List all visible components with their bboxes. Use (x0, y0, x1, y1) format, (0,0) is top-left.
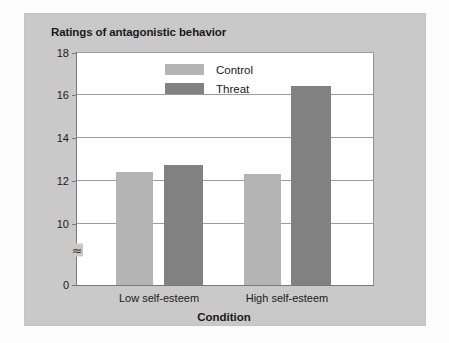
legend-item-control: Control (165, 60, 253, 79)
legend-item-threat: Threat (165, 79, 253, 98)
xaxis-category-label-high-self-esteem: High self-esteem (246, 292, 329, 304)
plot-area: 18 16 14 12 10 ≈ 0 (76, 52, 374, 286)
ytick-label-18: 18 (57, 47, 69, 59)
ytick-label-0: 0 (63, 279, 69, 291)
xaxis-title: Condition (197, 311, 251, 323)
bar-threat-high-self-esteem (291, 86, 331, 285)
chart-title: Ratings of antagonistic behavior (51, 26, 226, 38)
legend-label-control: Control (216, 64, 253, 76)
ytick-mark-14 (72, 138, 77, 139)
bar-control-high-self-esteem (244, 174, 281, 285)
legend-swatch-control (165, 64, 204, 75)
ytick-mark-18 (72, 53, 77, 54)
figure-panel: Ratings of antagonistic behavior 18 16 1… (25, 14, 425, 325)
axis-break-icon: ≈ (71, 244, 83, 257)
legend-swatch-threat (165, 83, 204, 94)
ytick-label-16: 16 (57, 89, 69, 101)
gridline-18: 18 (77, 52, 374, 53)
ytick-label-12: 12 (57, 175, 69, 187)
ytick-label-14: 14 (57, 132, 69, 144)
legend: Control Threat (165, 60, 253, 98)
ytick-mark-10 (72, 224, 77, 225)
bar-threat-low-self-esteem (164, 165, 203, 285)
xaxis-category-label-low-self-esteem: Low self-esteem (119, 292, 199, 304)
plot-frame-right-border (373, 52, 374, 285)
ytick-mark-0 (72, 285, 77, 286)
legend-label-threat: Threat (216, 83, 249, 95)
bar-control-low-self-esteem (116, 172, 153, 285)
ytick-label-10: 10 (57, 218, 69, 230)
ytick-mark-16 (72, 95, 77, 96)
ytick-mark-12 (72, 181, 77, 182)
